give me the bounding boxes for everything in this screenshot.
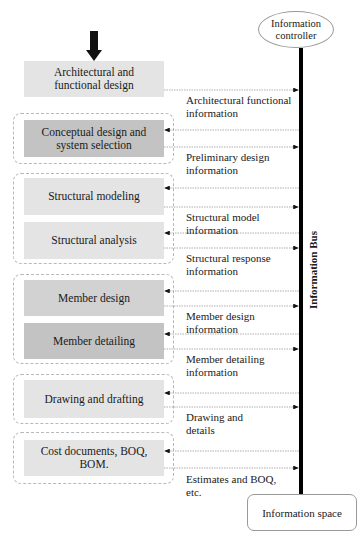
info-label-structural-response: Structural response information <box>186 252 271 278</box>
info-label-member-design: Member design information <box>186 310 255 336</box>
flow-arrows <box>0 0 364 542</box>
info-label-member-detailing: Member detailing information <box>186 353 265 379</box>
info-label-architectural: Architectural functional information <box>186 94 291 120</box>
info-label-structural-model: Structural model information <box>186 211 260 237</box>
info-label-estimates: Estimates and BOQ, etc. <box>186 473 276 499</box>
info-label-drawing: Drawing and details <box>186 411 243 437</box>
info-label-preliminary: Preliminary design information <box>186 151 269 177</box>
